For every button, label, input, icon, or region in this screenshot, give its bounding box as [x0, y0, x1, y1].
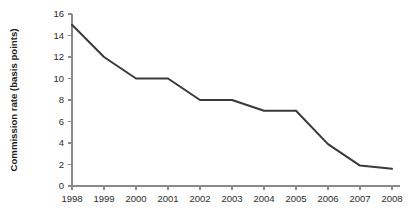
x-tick-label: 2008 — [381, 193, 402, 204]
y-axis-label-text: Commission rate (basis points) — [8, 29, 19, 172]
x-tick-label: 1998 — [61, 193, 82, 204]
y-tick-label: 8 — [59, 94, 64, 105]
y-tick-label: 16 — [53, 8, 64, 19]
x-tick-label: 2005 — [285, 193, 306, 204]
x-tick-label: 2006 — [317, 193, 338, 204]
x-tick-label: 2001 — [157, 193, 178, 204]
x-tick-label: 2004 — [253, 193, 274, 204]
line-chart: Commission rate (basis points) 024681012… — [0, 0, 414, 216]
y-tick-label: 4 — [59, 137, 64, 148]
y-tick-label: 12 — [53, 51, 64, 62]
y-tick-label: 6 — [59, 116, 64, 127]
y-axis-label: Commission rate (basis points) — [8, 29, 19, 172]
x-tick-label: 2000 — [125, 193, 146, 204]
y-tick-label: 2 — [59, 159, 64, 170]
x-tick-label: 2002 — [189, 193, 210, 204]
x-tick-label: 2007 — [349, 193, 370, 204]
chart-container: Commission rate (basis points) 024681012… — [0, 0, 414, 216]
y-tick-label: 0 — [59, 180, 64, 191]
x-tick-label: 2003 — [221, 193, 242, 204]
y-tick-label: 14 — [53, 30, 64, 41]
x-tick-label: 1999 — [93, 193, 114, 204]
y-tick-label: 10 — [53, 73, 64, 84]
